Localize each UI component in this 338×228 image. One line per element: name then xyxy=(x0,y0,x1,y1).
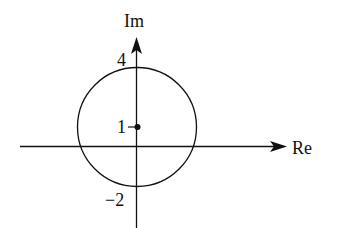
tick-label-minus-2: −2 xyxy=(105,190,124,210)
tick-label-4: 4 xyxy=(117,50,126,70)
complex-plane-diagram: Re Im 4 1 −2 xyxy=(0,0,338,228)
imaginary-axis-label: Im xyxy=(124,11,144,31)
real-axis-label: Re xyxy=(292,138,312,158)
tick-label-1: 1 xyxy=(117,117,126,137)
center-point xyxy=(135,124,141,130)
